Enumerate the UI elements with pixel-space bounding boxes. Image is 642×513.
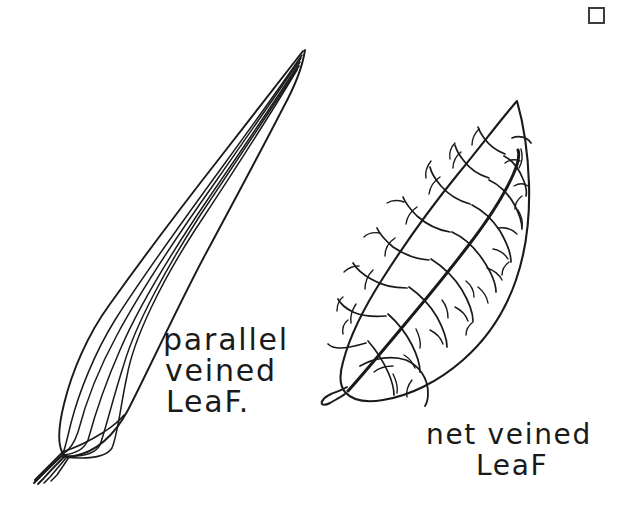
net-leaf-tertiary-vein-30	[374, 366, 393, 372]
net-leaf-tertiary-vein-29	[450, 143, 455, 159]
net-leaf-tertiary-vein-6	[493, 249, 508, 259]
net-leaf-tertiary-vein-16	[472, 129, 479, 145]
net-label-line-2: LeaF	[476, 450, 592, 481]
net-veined-leaf-label: net veined LeaF	[426, 419, 592, 481]
net-leaf-secondary-vein-5	[452, 232, 496, 292]
net-leaf-petiole-top	[323, 387, 347, 400]
net-leaf-tertiary-vein-33	[502, 262, 509, 275]
net-leaf-tertiary-vein-13	[416, 329, 420, 348]
net-leaf-secondary-vein-8	[388, 314, 420, 372]
net-leaf-tertiary-vein-10	[455, 307, 468, 321]
net-leaf-tertiary-vein-34	[466, 322, 473, 335]
net-leaf-tertiary-vein-27	[343, 320, 348, 334]
parallel-label-line-2: veined	[165, 355, 289, 386]
square-outline-icon	[588, 7, 605, 24]
net-leaf-tertiary-vein-24	[364, 233, 380, 237]
net-leaf-tertiary-vein-23	[387, 201, 404, 203]
net-leaf-secondary-vein-15	[353, 263, 407, 288]
parallel-label-line-3: LeaF.	[166, 386, 289, 417]
net-leaf-secondary-vein-17	[328, 343, 366, 348]
net-label-line-1: net veined	[426, 419, 592, 450]
net-leaf-tertiary-vein-12	[430, 330, 443, 344]
net-leaf-tertiary-vein-8	[478, 287, 488, 303]
net-veined-leaf-figure	[322, 101, 531, 406]
net-leaf-petiole-bottom	[322, 394, 345, 405]
net-leaf-tertiary-vein-18	[429, 177, 440, 194]
net-leaf-tertiary-vein-11	[442, 300, 448, 318]
net-leaf-tertiary-vein-9	[466, 281, 474, 297]
parallel-label-line-1: parallel	[163, 324, 289, 355]
parallel-veined-leaf-label: parallel veined LeaF.	[163, 324, 289, 417]
diagram-canvas: parallel veined LeaF. net veined LeaF	[0, 0, 642, 513]
net-leaf-secondary-vein-1	[512, 137, 531, 143]
